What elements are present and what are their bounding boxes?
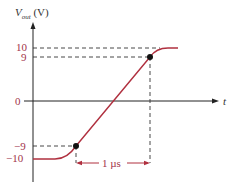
y-axis-arrow-icon (31, 22, 36, 29)
x-axis-label: t (223, 95, 227, 107)
interval-label: 1 µs (102, 157, 121, 169)
interval-dimension: 1 µs (76, 157, 150, 169)
marker-neg9 (73, 143, 79, 149)
marker-9 (147, 54, 153, 60)
arrow-left-icon (76, 161, 82, 165)
vout-curve (33, 48, 178, 159)
arrow-right-icon (144, 161, 150, 165)
reference-lines (33, 48, 160, 163)
y-axis-title: Vout (V) (15, 6, 49, 21)
tick-label-0: 0 (15, 95, 21, 107)
tick-label-neg9: −9 (14, 140, 26, 152)
tick-label-9: 9 (21, 51, 27, 63)
rise-time-diagram: Vout (V) t 10 9 0 −9 −10 1 µs (0, 0, 233, 193)
tick-label-neg10: −10 (6, 152, 24, 164)
x-axis-arrow-icon (212, 99, 219, 104)
